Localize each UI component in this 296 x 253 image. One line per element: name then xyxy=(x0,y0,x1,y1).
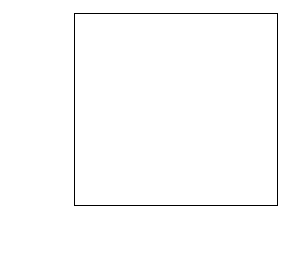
plot-canvas xyxy=(0,0,296,253)
chart-figure xyxy=(0,0,296,253)
axes-frame xyxy=(75,14,278,206)
